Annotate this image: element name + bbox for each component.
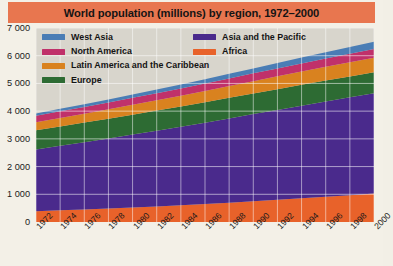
legend-column-right: Asia and the PacificAfrica — [193, 31, 306, 59]
y-tick-label: 0 — [25, 217, 30, 227]
legend-item[interactable]: Africa — [193, 45, 306, 58]
y-axis: 01 0002 0003 0004 0005 0006 0007 000 — [0, 28, 34, 222]
legend-label: West Asia — [71, 33, 113, 42]
y-tick-label: 7 000 — [7, 23, 30, 33]
legend-swatch — [42, 34, 65, 40]
chart-title: World population (millions) by region, 1… — [8, 2, 375, 23]
legend-label: Europe — [71, 76, 102, 85]
legend-swatch — [42, 63, 65, 69]
legend-label: Africa — [222, 47, 247, 56]
y-tick-label: 1 000 — [7, 189, 30, 199]
legend-item[interactable]: Europe — [42, 74, 209, 87]
chart-legend: West AsiaNorth AmericaLatin America and … — [42, 31, 342, 91]
legend-column-left: West AsiaNorth AmericaLatin America and … — [42, 31, 209, 88]
y-tick-label: 3 000 — [7, 134, 30, 144]
y-tick-label: 4 000 — [7, 106, 30, 116]
y-tick-label: 6 000 — [7, 51, 30, 61]
x-tick-label: 2000 — [372, 210, 393, 231]
y-tick-label: 2 000 — [7, 162, 30, 172]
legend-item[interactable]: Latin America and the Caribbean — [42, 59, 209, 72]
legend-item[interactable]: West Asia — [42, 31, 209, 44]
legend-item[interactable]: Asia and the Pacific — [193, 31, 306, 44]
chart-title-bar: World population (millions) by region, 1… — [8, 2, 375, 23]
legend-swatch — [42, 49, 65, 55]
y-tick-label: 5 000 — [7, 78, 30, 88]
legend-label: Asia and the Pacific — [222, 33, 306, 42]
legend-swatch — [193, 34, 216, 40]
legend-swatch — [42, 77, 65, 83]
legend-label: North America — [71, 47, 132, 56]
legend-item[interactable]: North America — [42, 45, 209, 58]
legend-label: Latin America and the Caribbean — [71, 61, 209, 70]
legend-swatch — [193, 49, 216, 55]
x-axis: 1972197419761978198019821984198619881990… — [36, 222, 382, 266]
